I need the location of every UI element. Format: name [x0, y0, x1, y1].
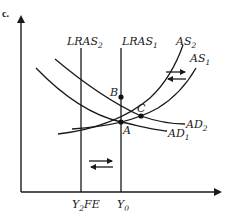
ad2-curve [55, 59, 185, 124]
as1-label: AS1 [189, 52, 210, 67]
x-tick-y0: Y0 [117, 198, 129, 213]
x-tick-y2fe: Y2FE [72, 198, 100, 213]
lras-shift-arrows [89, 161, 113, 167]
as-ad-diagram: c. B A C LRAS2 LRAS1 AS2 AS1 AD2 AD1 Y2F… [0, 0, 227, 219]
part-label: c. [2, 8, 9, 19]
as1-curve [72, 68, 196, 129]
lras2-label: LRAS2 [66, 35, 103, 50]
as2-label: AS2 [175, 35, 196, 50]
point-b [118, 94, 123, 99]
ad2-label: AD2 [185, 118, 208, 133]
lras1-label: LRAS1 [121, 35, 158, 50]
point-a-label: A [122, 124, 131, 137]
point-b-label: B [109, 86, 118, 99]
point-c-label: C [137, 102, 146, 115]
